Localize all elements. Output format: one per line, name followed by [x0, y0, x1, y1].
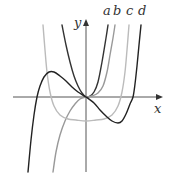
x-axis-arrow-icon [156, 94, 163, 100]
curve-label-a: a [103, 3, 111, 18]
curve-a [62, 25, 108, 97]
x-axis-label: x [154, 101, 162, 116]
axes: x y [13, 15, 163, 172]
curve-labels: abcd [103, 3, 146, 18]
curve-label-d: d [138, 3, 146, 18]
curve-label-c: c [126, 3, 134, 18]
function-graph: x y abcd [0, 0, 170, 178]
curve-label-b: b [113, 3, 121, 18]
curves [28, 25, 141, 172]
y-axis-label: y [73, 15, 82, 30]
curve-b [53, 25, 115, 172]
y-axis-arrow-icon [83, 19, 89, 26]
